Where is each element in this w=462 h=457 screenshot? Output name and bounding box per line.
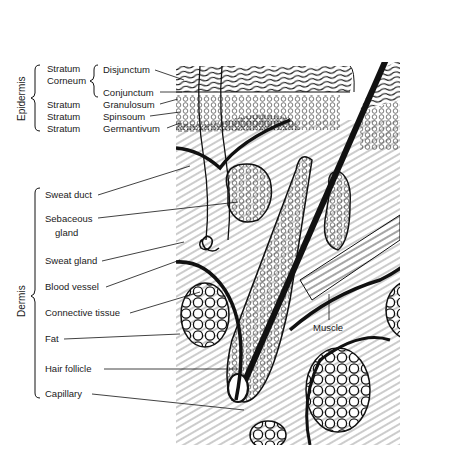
blood-vessel-label: Blood vessel — [45, 281, 99, 292]
fat-label: Fat — [45, 333, 59, 344]
sweat-gland-label: Sweat gland — [45, 255, 97, 266]
hair-follicle-label: Hair follicle — [45, 363, 91, 374]
disjunctum-label: Disjunctum — [103, 64, 150, 75]
stratum-spinosum-prefix: Stratum — [47, 111, 80, 122]
connective-tissue-label: Connective tissue — [45, 307, 120, 318]
stratum-germinativum-prefix: Stratum — [47, 123, 80, 134]
stratum-granulosum-prefix: Stratum — [47, 99, 80, 110]
dermis-label: Dermis — [16, 285, 27, 317]
granulosum-label: Granulosum — [103, 99, 155, 110]
gland-label: gland — [55, 227, 78, 238]
capillary-label: Capillary — [45, 388, 82, 399]
epidermis-label: Epidermis — [16, 77, 27, 121]
germantivum-label: Germantivum — [103, 123, 160, 134]
conjunctum-label: Conjunctum — [103, 87, 154, 98]
stratum-corneum-label-1: Stratum — [47, 63, 80, 74]
sweat-duct-label: Sweat duct — [45, 189, 92, 200]
muscle-label: Muscle — [313, 322, 343, 333]
spinsoum-label: Spinsoum — [103, 111, 145, 122]
sebaceous-label: Sebaceous — [45, 213, 93, 224]
stratum-corneum-label-2: Corneum — [47, 75, 86, 86]
